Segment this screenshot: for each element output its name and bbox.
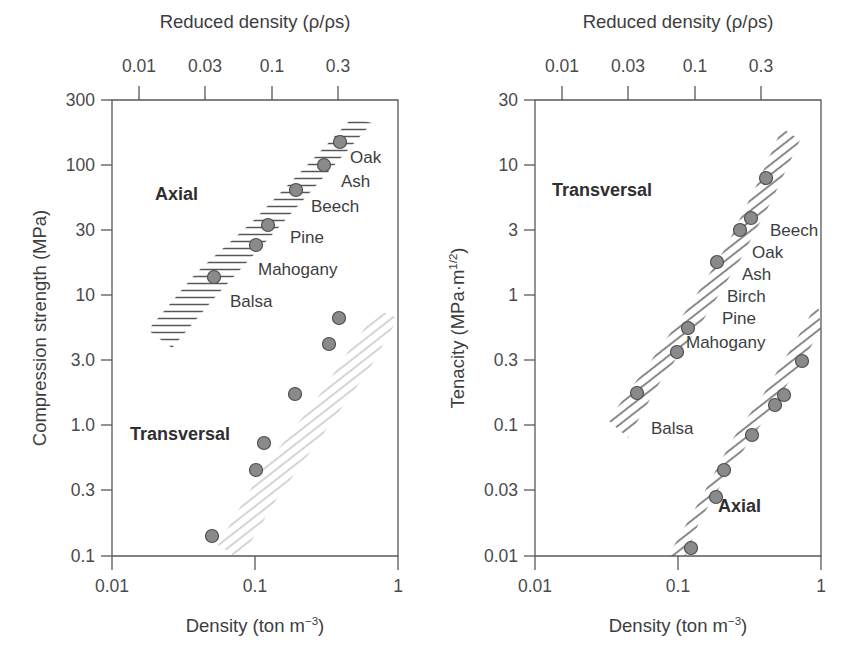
- left-y-axis-title: Compression strength (MPa): [29, 210, 50, 446]
- right-y-tick-label-7: 0.01: [484, 546, 518, 566]
- right-y-tick-label-0: 30: [499, 90, 519, 110]
- data-point: [718, 464, 731, 477]
- right-y-tick-label-1: 10: [499, 155, 519, 175]
- right-top-tick-label-1: 0.03: [611, 56, 645, 76]
- left-bottom-axis-title-main: Density (ton m: [186, 615, 305, 636]
- left-y-tick-label-3: 10: [76, 285, 96, 305]
- left-bottom-axis-title-tail: ): [318, 615, 324, 636]
- left-y-tick-label-6: 0.3: [71, 480, 95, 500]
- data-point: [290, 184, 303, 197]
- left-point-label-beech: Beech: [311, 197, 359, 216]
- left-y-tick-label-0: 300: [66, 90, 95, 110]
- right-top-axis-title: Reduced density (ρ/ρs): [583, 11, 774, 32]
- left-top-ticks: [139, 86, 338, 100]
- right-region-label-transversal: Transversal: [552, 180, 652, 200]
- right-point-label-oak: Oak: [752, 243, 784, 262]
- left-y-tick-label-5: 1.0: [71, 415, 96, 435]
- left-top-tick-label-2: 0.1: [260, 56, 284, 76]
- data-point: [796, 355, 809, 368]
- left-y-tick-label-2: 30: [76, 220, 96, 240]
- left-y-tick-label-7: 0.1: [71, 546, 95, 566]
- data-point: [778, 389, 791, 402]
- left-bottom-tick-label-0: 0.01: [95, 576, 129, 596]
- right-bottom-ticks: [535, 556, 821, 570]
- data-point: [685, 542, 698, 555]
- data-point: [760, 172, 773, 185]
- right-bottom-axis-title-main: Density (ton m: [609, 615, 728, 636]
- left-point-label-balsa: Balsa: [230, 292, 273, 311]
- left-y-tick-label-1: 100: [66, 155, 95, 175]
- left-top-tick-label-1: 0.03: [188, 56, 222, 76]
- data-point: [250, 464, 263, 477]
- left-region-label-transversal: Transversal: [130, 424, 230, 444]
- left-point-label-oak: Oak: [350, 148, 382, 167]
- left-point-label-ash: Ash: [341, 172, 370, 191]
- data-point: [711, 256, 724, 269]
- right-region-label-axial: Axial: [718, 496, 761, 516]
- right-y-tick-label-4: 0.3: [494, 350, 518, 370]
- left-point-label-pine: Pine: [290, 228, 324, 247]
- right-point-label-ash: Ash: [742, 265, 771, 284]
- data-point: [258, 437, 271, 450]
- data-point: [631, 387, 644, 400]
- panel-left: Reduced density (ρ/ρs) 0.01 0.03 0.1 0.3: [29, 11, 403, 636]
- left-bottom-tick-label-2: 1: [393, 576, 403, 596]
- right-top-tick-label-0: 0.01: [545, 56, 579, 76]
- data-point: [262, 219, 275, 232]
- left-bottom-axis-title-sup: −3: [305, 615, 318, 627]
- data-point: [746, 429, 759, 442]
- right-point-label-balsa: Balsa: [651, 419, 694, 438]
- data-point: [323, 338, 336, 351]
- data-point: [289, 388, 302, 401]
- data-point: [208, 271, 221, 284]
- wood-properties-figure: Reduced density (ρ/ρs) 0.01 0.03 0.1 0.3: [0, 0, 841, 647]
- right-top-tick-label-2: 0.1: [683, 56, 707, 76]
- right-y-axis-title-main: Tenacity (MPa·m: [447, 270, 468, 409]
- right-bottom-axis-title-tail: ): [741, 615, 747, 636]
- data-point: [710, 491, 723, 504]
- right-y-tick-label-3: 1: [508, 285, 518, 305]
- right-top-ticks: [562, 86, 761, 100]
- left-top-tick-label-3: 0.3: [326, 56, 350, 76]
- data-point: [334, 136, 347, 149]
- left-y-tick-label-4: 3.0: [71, 350, 96, 370]
- left-point-label-mahogany: Mahogany: [258, 260, 338, 279]
- right-bottom-tick-label-2: 1: [816, 576, 826, 596]
- data-point: [333, 312, 346, 325]
- right-bottom-tick-label-1: 0.1: [666, 576, 690, 596]
- left-bottom-tick-label-1: 0.1: [243, 576, 267, 596]
- data-point: [745, 212, 758, 225]
- left-region-label-axial: Axial: [155, 184, 198, 204]
- right-y-tick-label-6: 0.03: [484, 480, 518, 500]
- data-point: [318, 159, 331, 172]
- right-axial-points: [685, 355, 809, 555]
- right-point-label-birch: Birch: [727, 287, 766, 306]
- right-point-label-mahogany: Mahogany: [686, 333, 766, 352]
- right-bottom-axis-title: Density (ton m−3): [609, 615, 748, 636]
- right-bottom-axis-title-sup: −3: [728, 615, 741, 627]
- figure-root: Reduced density (ρ/ρs) 0.01 0.03 0.1 0.3: [0, 0, 841, 647]
- right-y-tick-label-2: 3: [508, 220, 518, 240]
- left-y-ticks: [101, 100, 112, 556]
- right-y-axis-title-tail: ): [447, 248, 468, 254]
- right-point-label-beech: Beech: [770, 221, 818, 240]
- right-top-tick-label-3: 0.3: [749, 56, 773, 76]
- right-y-tick-label-5: 0.1: [494, 415, 518, 435]
- right-y-axis-title-sup: 1/2: [447, 254, 459, 270]
- left-top-tick-label-0: 0.01: [122, 56, 156, 76]
- right-bottom-tick-label-0: 0.01: [518, 576, 552, 596]
- data-point: [734, 224, 747, 237]
- data-point: [206, 530, 219, 543]
- right-point-label-pine: Pine: [722, 309, 756, 328]
- data-point: [671, 346, 684, 359]
- left-top-axis-title: Reduced density (ρ/ρs): [160, 11, 351, 32]
- right-y-axis-title: Tenacity (MPa·m1/2): [447, 248, 468, 409]
- right-y-ticks: [524, 100, 535, 556]
- panel-right: Reduced density (ρ/ρs) 0.01 0.03 0.1 0.3: [447, 11, 826, 636]
- left-transversal-band: [218, 310, 398, 560]
- left-bottom-axis-title: Density (ton m−3): [186, 615, 325, 636]
- left-bottom-ticks: [112, 556, 398, 570]
- data-point: [250, 239, 263, 252]
